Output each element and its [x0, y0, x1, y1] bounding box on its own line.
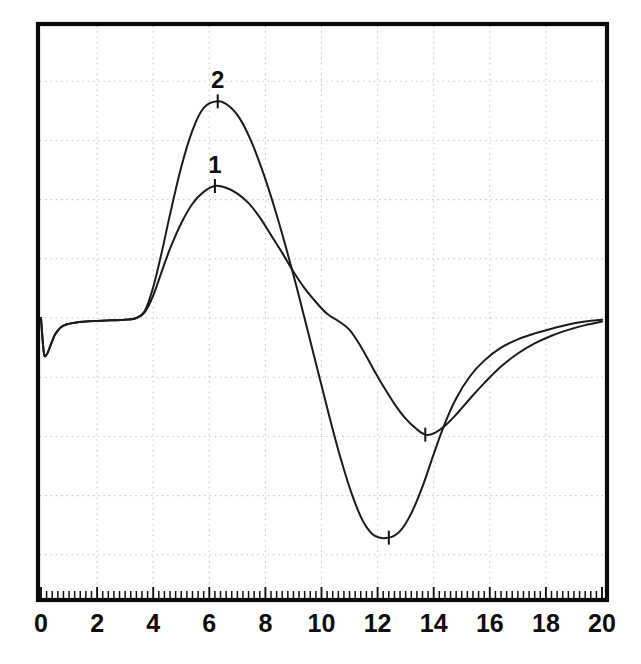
curve-label-1: 1	[208, 151, 221, 178]
x-tick-label: 14	[420, 609, 448, 637]
curve-label-2: 2	[211, 66, 224, 93]
x-tick-label: 10	[308, 609, 336, 637]
x-tick-label: 8	[258, 609, 272, 637]
x-tick-label: 2	[90, 609, 104, 637]
x-tick-label: 16	[476, 609, 504, 637]
chart-figure: 02468101214161820 21	[0, 0, 641, 664]
x-tick-label: 6	[202, 609, 216, 637]
x-tick-label: 18	[532, 609, 560, 637]
plot-background	[0, 0, 641, 664]
x-tick-label: 12	[364, 609, 392, 637]
x-tick-label: 4	[146, 609, 160, 637]
plot-canvas: 02468101214161820 21	[0, 0, 641, 664]
x-tick-label: 20	[588, 609, 616, 637]
x-tick-label: 0	[34, 609, 48, 637]
